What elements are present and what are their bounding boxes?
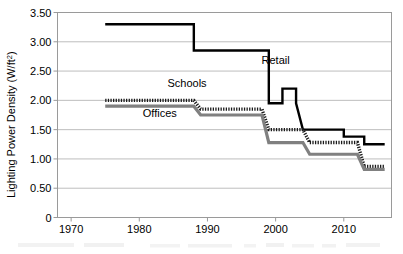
y-tick-label: 3.00 — [30, 36, 51, 48]
x-tick-label: 2010 — [332, 223, 356, 235]
y-tick-label: 0.50 — [30, 182, 51, 194]
series-label-offices: Offices — [143, 107, 178, 119]
series-label-schools: Schools — [167, 77, 207, 89]
chart-background — [0, 0, 403, 254]
y-tick-label: 1.00 — [30, 153, 51, 165]
series-label-retail: Retail — [262, 54, 290, 66]
y-axis-title: Lighting Power Density (W/ft2) — [5, 51, 18, 198]
y-tick-label: 3.50 — [30, 7, 51, 19]
y-tick-label: 2.00 — [30, 94, 51, 106]
lighting-power-density-chart: 00.501.001.502.002.503.003.50 1970198019… — [0, 0, 403, 254]
x-tick-label: 1980 — [127, 223, 151, 235]
y-tick-label: 0 — [45, 212, 51, 224]
figure-container: 00.501.001.502.002.503.003.50 1970198019… — [0, 0, 403, 254]
x-tick-label: 2000 — [263, 223, 287, 235]
y-tick-label: 2.50 — [30, 65, 51, 77]
x-tick-label: 1970 — [59, 223, 83, 235]
x-tick-label: 1990 — [195, 223, 219, 235]
y-tick-label: 1.50 — [30, 124, 51, 136]
